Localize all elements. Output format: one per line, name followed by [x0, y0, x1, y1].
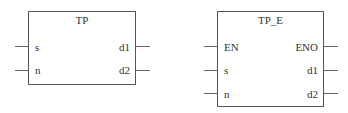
output-wire-d1	[136, 46, 150, 47]
input-pin-en: EN	[224, 41, 239, 53]
output-wire-eno	[324, 46, 338, 47]
block-title: TP	[29, 14, 135, 26]
output-pin-d2: d2	[119, 64, 130, 76]
input-wire-s	[204, 70, 218, 71]
input-pin-n: n	[224, 88, 230, 100]
input-wire-n	[204, 93, 218, 94]
output-pin-eno: ENO	[295, 41, 318, 53]
input-wire-en	[204, 46, 218, 47]
input-wire-s	[15, 46, 29, 47]
output-pin-d1: d1	[119, 41, 130, 53]
function-block-tp-e: TP_E EN s n ENO d1 d2	[217, 11, 324, 107]
function-block-tp: TP s n d1 d2	[28, 11, 136, 85]
output-wire-d2	[136, 70, 150, 71]
input-wire-n	[15, 70, 29, 71]
block-title: TP_E	[218, 14, 323, 26]
output-pin-d2: d2	[307, 88, 318, 100]
input-pin-n: n	[35, 64, 41, 76]
input-pin-s: s	[224, 64, 228, 76]
output-wire-d1	[324, 70, 338, 71]
output-pin-d1: d1	[307, 64, 318, 76]
output-wire-d2	[324, 93, 338, 94]
input-pin-s: s	[35, 41, 39, 53]
